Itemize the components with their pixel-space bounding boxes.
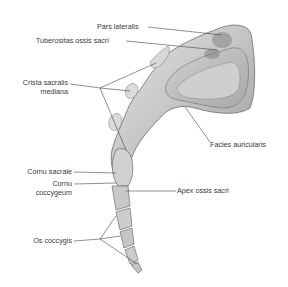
- label-crista-sacralis-2: mediana: [14, 88, 68, 96]
- label-cornu-coccygeum-1: Cornu: [14, 180, 72, 188]
- label-pars-lateralis: Pars lateralis: [97, 23, 139, 31]
- label-cornu-sacrale: Cornu sacrale: [14, 168, 72, 176]
- label-tuberositas-ossis-sacri: Tuberositas ossis sacri: [36, 37, 109, 45]
- label-cornu-coccygeum-2: coccygeum: [14, 189, 72, 197]
- label-apex-ossis-sacri: Apex ossis sacri: [177, 187, 229, 195]
- label-crista-sacralis-1: Crista sacralis: [14, 79, 68, 87]
- label-facies-auricularis: Facies auricularis: [210, 141, 266, 149]
- label-os-coccygis: Os coccygis: [14, 237, 72, 245]
- coccyx-shape: [112, 148, 142, 273]
